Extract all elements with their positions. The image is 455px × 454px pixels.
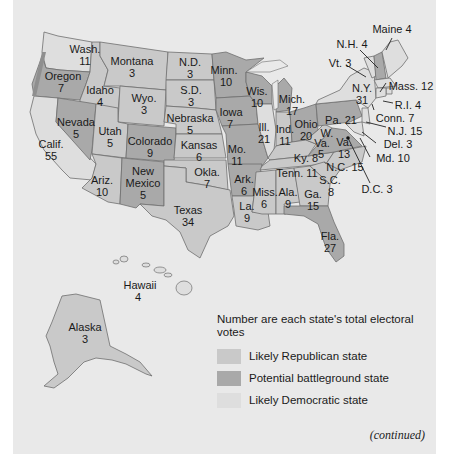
svg-text:3: 3	[188, 96, 194, 108]
svg-text:Oregon: Oregon	[45, 70, 82, 82]
legend-item-battleground: Potential battleground state	[217, 367, 437, 389]
svg-text:11: 11	[279, 135, 290, 147]
leader-del	[362, 132, 376, 143]
svg-text:Minn.: Minn.	[211, 64, 238, 76]
svg-text:N.C. 15: N.C. 15	[326, 161, 363, 173]
svg-text:Mexico: Mexico	[126, 177, 161, 189]
lake-michigan	[272, 80, 278, 110]
svg-text:Utah: Utah	[98, 125, 121, 137]
svg-text:5: 5	[140, 189, 146, 201]
svg-text:Nebraska: Nebraska	[166, 112, 214, 124]
svg-text:Pa. 21: Pa. 21	[325, 114, 357, 126]
svg-text:Wis.: Wis.	[246, 85, 267, 97]
svg-text:Maine 4: Maine 4	[372, 23, 411, 35]
svg-text:27: 27	[324, 242, 336, 254]
swatch-democratic	[217, 393, 241, 408]
svg-text:11: 11	[231, 155, 242, 167]
svg-text:Nevada: Nevada	[57, 116, 96, 128]
svg-text:3: 3	[187, 68, 193, 80]
svg-text:8: 8	[328, 186, 334, 198]
svg-text:5: 5	[107, 137, 113, 149]
svg-text:Idaho: Idaho	[86, 84, 114, 96]
svg-text:New: New	[132, 165, 154, 177]
svg-text:3: 3	[129, 67, 135, 79]
swatch-battleground	[217, 371, 241, 386]
svg-text:31: 31	[356, 94, 368, 106]
svg-text:Fla.: Fla.	[321, 230, 339, 242]
svg-text:7: 7	[58, 82, 64, 94]
svg-text:Ind.: Ind.	[276, 123, 294, 135]
svg-text:Iowa: Iowa	[219, 106, 243, 118]
svg-text:Tenn. 11: Tenn. 11	[276, 167, 317, 179]
svg-text:Hawaii: Hawaii	[123, 279, 156, 291]
svg-text:Va.: Va.	[336, 136, 352, 148]
svg-text:10: 10	[96, 186, 108, 198]
leader-conn	[372, 104, 374, 110]
svg-text:5: 5	[187, 124, 193, 136]
svg-text:Alaska: Alaska	[68, 321, 102, 333]
legend-label-battleground: Potential battleground state	[249, 372, 389, 384]
svg-text:5: 5	[73, 128, 79, 140]
svg-text:Ariz.: Ariz.	[91, 174, 113, 186]
legend-title: Number are each state's total electoral …	[217, 313, 437, 339]
svg-text:Wash.: Wash.	[70, 43, 101, 55]
legend-label-republican: Likely Republican state	[249, 350, 367, 362]
svg-text:15: 15	[307, 200, 319, 212]
svg-text:Mass. 12: Mass. 12	[389, 80, 434, 92]
svg-text:17: 17	[286, 105, 298, 117]
leader-ri	[383, 101, 393, 103]
svg-text:3: 3	[141, 104, 147, 116]
svg-text:55: 55	[45, 150, 57, 162]
svg-text:S.C.: S.C.	[319, 174, 340, 186]
svg-text:Colorado: Colorado	[128, 135, 173, 147]
svg-text:Calif.: Calif.	[38, 138, 63, 150]
svg-text:6: 6	[261, 198, 267, 210]
svg-text:Kansas: Kansas	[181, 139, 218, 151]
svg-text:34: 34	[182, 216, 194, 228]
state-connecticut	[376, 88, 386, 98]
svg-text:7: 7	[204, 178, 210, 190]
svg-text:21: 21	[258, 133, 270, 145]
svg-text:D.C. 3: D.C. 3	[361, 183, 392, 195]
svg-text:4: 4	[97, 96, 103, 108]
svg-text:S.D.: S.D.	[180, 84, 201, 96]
svg-text:La.: La.	[239, 200, 254, 212]
svg-text:9: 9	[285, 198, 291, 210]
state-alaska	[44, 294, 152, 388]
svg-text:Okla.: Okla.	[194, 166, 220, 178]
svg-text:10: 10	[220, 76, 232, 88]
svg-text:4: 4	[135, 291, 141, 303]
svg-text:Ga.: Ga.	[304, 188, 322, 200]
svg-text:13: 13	[338, 148, 350, 160]
svg-text:Ark.: Ark.	[234, 173, 254, 185]
svg-text:Montana: Montana	[111, 55, 155, 67]
svg-text:Wyo.: Wyo.	[132, 92, 157, 104]
svg-text:Ohio: Ohio	[294, 118, 317, 130]
svg-text:9: 9	[244, 212, 250, 224]
map-legend: Number are each state's total electoral …	[217, 313, 437, 411]
state-maine	[382, 40, 408, 78]
svg-text:6: 6	[241, 185, 247, 197]
legend-item-republican: Likely Republican state	[217, 345, 437, 367]
svg-text:5: 5	[318, 148, 324, 160]
state-new-jersey	[362, 108, 370, 124]
svg-text:N.D.: N.D.	[179, 56, 201, 68]
svg-text:Md. 10: Md. 10	[376, 152, 410, 164]
continued-note: (continued)	[370, 428, 425, 443]
svg-text:Mo.: Mo.	[228, 143, 246, 155]
svg-text:Conn. 7: Conn. 7	[376, 112, 415, 124]
svg-text:Del. 3: Del. 3	[384, 138, 413, 150]
svg-text:Miss.: Miss.	[252, 186, 278, 198]
legend-item-democratic: Likely Democratic state	[217, 389, 437, 411]
svg-text:R.I. 4: R.I. 4	[395, 99, 421, 111]
svg-text:3: 3	[82, 333, 88, 345]
svg-text:20: 20	[300, 130, 312, 142]
svg-text:N.Y.: N.Y.	[352, 82, 372, 94]
svg-text:9: 9	[147, 147, 153, 159]
svg-text:Vt. 3: Vt. 3	[329, 57, 352, 69]
svg-text:Texas: Texas	[174, 204, 203, 216]
swatch-republican	[217, 349, 241, 364]
svg-text:6: 6	[196, 151, 202, 163]
svg-text:N.H. 4: N.H. 4	[336, 38, 367, 50]
svg-text:7: 7	[227, 118, 233, 130]
